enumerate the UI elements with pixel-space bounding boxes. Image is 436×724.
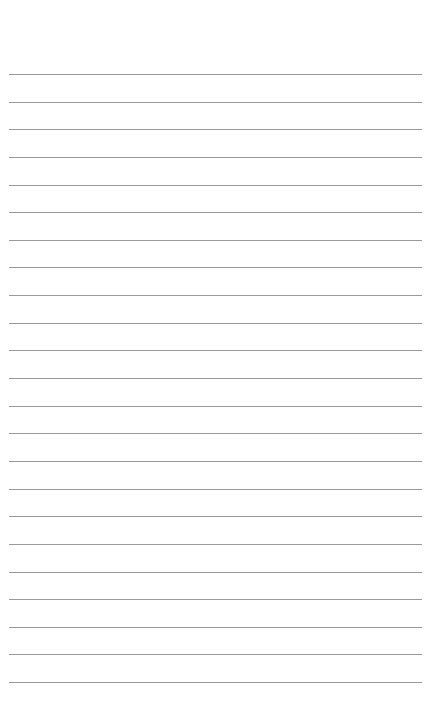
- ruled-line: [9, 129, 422, 130]
- ruled-line: [9, 102, 422, 103]
- ruled-line: [9, 240, 422, 241]
- ruled-line: [9, 185, 422, 186]
- ruled-line: [9, 406, 422, 407]
- ruled-line: [9, 461, 422, 462]
- ruled-line: [9, 516, 422, 517]
- lined-paper-page: [0, 0, 436, 724]
- ruled-line: [9, 572, 422, 573]
- ruled-line: [9, 654, 422, 655]
- ruled-line: [9, 378, 422, 379]
- ruled-line: [9, 433, 422, 434]
- ruled-line: [9, 350, 422, 351]
- ruled-line: [9, 212, 422, 213]
- ruled-line: [9, 489, 422, 490]
- ruled-line: [9, 74, 422, 75]
- ruled-line: [9, 295, 422, 296]
- ruled-line: [9, 267, 422, 268]
- ruled-line: [9, 157, 422, 158]
- ruled-line: [9, 599, 422, 600]
- ruled-line: [9, 323, 422, 324]
- ruled-line: [9, 544, 422, 545]
- ruled-line: [9, 682, 422, 683]
- ruled-line: [9, 627, 422, 628]
